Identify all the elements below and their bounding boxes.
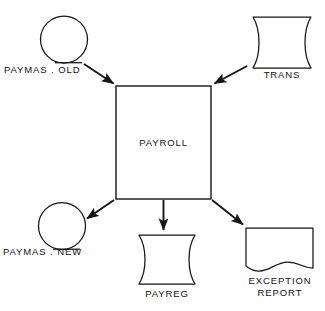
magnetic-tape-icon: [39, 203, 86, 250]
node-trans[interactable]: [253, 17, 311, 68]
edge-payroll-to-paymas-new: [87, 200, 114, 219]
node-payreg[interactable]: [139, 235, 195, 284]
node-exception-report[interactable]: [246, 228, 313, 271]
edge-payroll-to-exception-report: [212, 200, 243, 225]
label-exception-report-line1: EXCEPTION: [239, 275, 321, 287]
node-paymas-new[interactable]: [39, 203, 86, 250]
flowchart-svg: [0, 0, 325, 311]
label-exception-report-line2: REPORT: [239, 287, 321, 299]
node-paymas-old[interactable]: [41, 16, 88, 63]
online-storage-icon: [139, 235, 195, 284]
label-exception-report: EXCEPTION REPORT: [239, 275, 321, 299]
document-icon: [246, 228, 313, 271]
magnetic-tape-icon: [41, 16, 88, 63]
label-paymas-new: PAYMAS . NEW: [3, 246, 108, 258]
flowchart-canvas: PAYMAS . OLD TRANS PAYROLL PAYMAS . NEW …: [0, 0, 325, 311]
label-payroll: PAYROLL: [116, 137, 211, 148]
label-paymas-old: PAYMAS . OLD: [4, 64, 100, 76]
label-trans: TRANS: [247, 69, 317, 81]
label-payreg: PAYREG: [129, 288, 205, 300]
online-storage-icon: [253, 17, 311, 68]
edge-trans-to-payroll: [215, 66, 248, 84]
